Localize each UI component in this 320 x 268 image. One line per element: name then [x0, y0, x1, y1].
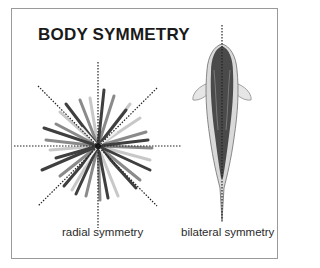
sea-urchin-icon: [42, 90, 152, 200]
bilateral-symmetry-label: bilateral symmetry: [181, 226, 274, 238]
radial-symmetry-label: radial symmetry: [62, 226, 143, 238]
